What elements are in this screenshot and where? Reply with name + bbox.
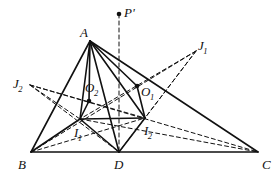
point-label-subscript: 2 — [148, 131, 152, 141]
point-label-p: P' — [124, 6, 135, 19]
point-dot-p — [117, 12, 122, 17]
point-label-base: O — [141, 84, 150, 99]
point-label-base: B — [18, 157, 26, 172]
point-label-base: O — [85, 80, 94, 95]
geometry-canvas — [0, 0, 279, 183]
point-label-j1: J1 — [198, 39, 208, 55]
point-label-base: D — [114, 157, 123, 172]
point-label-c: C — [262, 158, 271, 171]
segment-B-I2 — [31, 118, 145, 152]
point-label-subscript: 1 — [78, 133, 82, 143]
segment-A-I2 — [90, 41, 145, 118]
point-label-d: D — [114, 158, 123, 171]
point-label-subscript: 1 — [150, 92, 154, 102]
point-dot-o1 — [135, 84, 140, 89]
point-label-subscript: 2 — [18, 84, 22, 94]
segment-J1-B — [31, 51, 196, 152]
point-dot-o2 — [87, 99, 92, 104]
segment-A-O1 — [90, 41, 137, 86]
segment-I1-B — [31, 119, 80, 152]
point-label-subscript: 2 — [94, 88, 98, 98]
segment-I2-D — [119, 118, 145, 152]
point-label-a: A — [80, 26, 88, 39]
point-label-i2: I2 — [144, 124, 152, 140]
segment-I1-I2 — [80, 118, 145, 119]
point-label-i1: I1 — [74, 126, 82, 142]
point-label-base: P — [124, 5, 132, 20]
point-label-o2: O2 — [85, 81, 98, 97]
point-label-subscript: 1 — [203, 46, 207, 56]
point-label-o1: O1 — [141, 85, 154, 101]
point-label-base: C — [262, 157, 271, 172]
point-label-j2: J2 — [13, 77, 23, 93]
point-label-base: A — [80, 25, 88, 40]
geometry-figure: ABCDI1I2O1O2J1J2P' — [0, 0, 279, 183]
point-label-prime: ' — [132, 5, 135, 20]
point-label-b: B — [18, 158, 26, 171]
segment-I1-C — [80, 119, 258, 152]
